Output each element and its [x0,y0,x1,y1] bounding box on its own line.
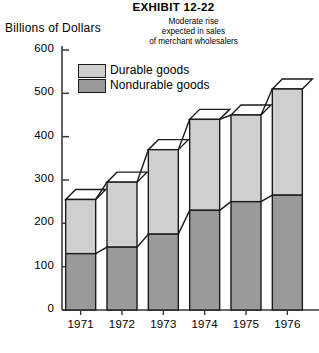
bar-group [190,109,230,310]
x-tick-label: 1971 [59,318,103,330]
y-tick-label: 300 [20,172,54,184]
bar-group [231,105,271,310]
total-connector [178,119,189,149]
bar-top-face [148,140,188,150]
bar-segment-durable [272,89,302,195]
divider-connector [137,234,148,247]
bar-segment-nondurable [66,254,96,310]
y-tick-label: 0 [20,302,54,314]
bar-segment-durable [190,119,220,210]
bar-segment-durable [231,115,261,202]
divider-connector [96,247,107,254]
bar-segment-nondurable [190,210,220,310]
y-tick-label: 200 [20,215,54,227]
bar-group [66,190,106,311]
legend-swatch-durable-icon [78,64,106,78]
x-tick-label: 1973 [141,318,185,330]
total-connector [261,89,272,115]
y-tick-label: 600 [20,42,54,54]
x-tick-label: 1976 [265,318,309,330]
bar-segment-nondurable [272,195,302,310]
y-tick-label: 500 [20,85,54,97]
y-tick-label: 400 [20,129,54,141]
chart-legend: Durable goods Nondurable goods [78,63,210,93]
x-tick-label: 1975 [224,318,268,330]
legend-label-durable: Durable goods [110,63,189,78]
legend-swatch-nondurable-icon [78,79,106,93]
divider-connector [178,210,189,234]
divider-connector [261,195,272,202]
bar-segment-nondurable [231,202,261,310]
bar-segment-durable [66,200,96,254]
divider-connector [220,202,231,211]
bar-segment-durable [107,182,137,247]
legend-item-nondurable: Nondurable goods [78,78,210,93]
bar-segment-nondurable [107,247,137,310]
bar-segment-durable [148,150,178,235]
bar-group [272,79,312,310]
bar-top-face [107,172,147,182]
bar-group [107,172,147,310]
bar-segment-nondurable [148,234,178,310]
bar-top-face [272,79,312,89]
legend-item-durable: Durable goods [78,63,210,78]
y-tick-label: 100 [20,259,54,271]
x-tick-label: 1974 [183,318,227,330]
x-tick-label: 1972 [100,318,144,330]
legend-label-nondurable: Nondurable goods [110,78,210,93]
